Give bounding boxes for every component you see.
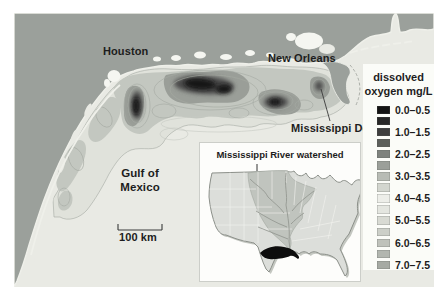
legend-title-line1: dissolved	[373, 71, 424, 83]
label-new-orleans: New Orleans	[268, 52, 336, 64]
legend-row	[377, 117, 434, 126]
legend-row: 6.0–6.5	[377, 239, 434, 248]
legend-swatch-label: 6.0–6.5	[395, 238, 430, 249]
label-houston: Houston	[103, 45, 148, 57]
legend-swatch-label: 7.0–7.5	[395, 260, 430, 271]
inset-watershed-map: Mississippi River watershed	[200, 143, 360, 281]
legend-swatch	[377, 216, 390, 225]
legend-row	[377, 205, 434, 214]
legend-swatch-label: 1.0–1.5	[395, 127, 430, 138]
legend-swatch	[377, 250, 390, 259]
legend-row	[377, 250, 434, 259]
label-gulf-line2: Mexico	[120, 181, 160, 193]
legend-swatch	[377, 194, 390, 203]
legend-swatch	[377, 261, 390, 270]
legend-swatch	[377, 239, 390, 248]
legend-swatch	[377, 228, 390, 237]
legend-row: 4.0–4.5	[377, 194, 434, 203]
legend-swatch-label: 3.0–3.5	[395, 171, 430, 182]
legend-swatch	[377, 172, 390, 181]
legend-swatch	[377, 139, 390, 148]
legend-swatch	[377, 161, 390, 170]
legend-row: 1.0–1.5	[377, 128, 434, 137]
legend-row	[377, 183, 434, 192]
label-gulf-of-mexico: Gulf of Mexico	[108, 166, 172, 195]
legend-swatch	[377, 128, 390, 137]
galveston-bay	[108, 70, 121, 82]
legend-row: 0.0–0.5	[377, 106, 434, 115]
legend-swatch-label: 0.0–0.5	[395, 105, 430, 116]
label-scale-bar: 100 km	[106, 231, 170, 245]
legend-swatch-label: 2.0–2.5	[395, 149, 430, 160]
legend-swatch	[377, 117, 390, 126]
us-map	[200, 143, 360, 281]
legend-row: 2.0–2.5	[377, 150, 434, 159]
label-gulf-line1: Gulf of	[121, 167, 159, 179]
legend-title: dissolved oxygen mg/L	[363, 71, 434, 99]
legend-swatch	[377, 106, 390, 115]
legend-swatch-label: 4.0–4.5	[395, 193, 430, 204]
legend-row: 3.0–3.5	[377, 172, 434, 181]
legend-row	[377, 139, 434, 148]
legend-row: 7.0–7.5	[377, 261, 434, 270]
inset-title: Mississippi River watershed	[200, 149, 360, 160]
figure-gulf-dead-zone-map: Houston New Orleans Mississippi Delta Gu…	[0, 0, 446, 301]
legend-title-line2: oxygen mg/L	[365, 85, 433, 97]
legend-entries: 0.0–0.5 1.0–1.5	[363, 106, 434, 270]
legend-swatch	[377, 183, 390, 192]
legend-row	[377, 228, 434, 237]
legend-swatch-label: 5.0–5.5	[395, 215, 430, 226]
legend-row: 5.0–5.5	[377, 216, 434, 225]
legend-row	[377, 161, 434, 170]
lake-pontchartrain	[295, 33, 323, 50]
legend-swatch	[377, 150, 390, 159]
legend-dissolved-oxygen: dissolved oxygen mg/L 0.0–0.5 1.0–1.5	[363, 64, 434, 270]
legend-swatch	[377, 205, 390, 214]
